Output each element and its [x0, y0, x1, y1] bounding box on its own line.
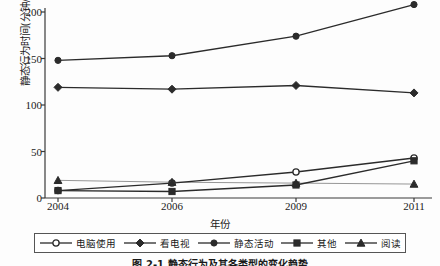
x-tick-label: 2011 [403, 200, 425, 212]
series-1 [54, 81, 418, 96]
legend-item-2[interactable]: 静态活动 [197, 236, 274, 250]
legend-marker-square-icon [280, 237, 314, 249]
axes [41, 8, 432, 202]
legend-item-1[interactable]: 看电视 [123, 236, 190, 250]
series-3 [55, 158, 417, 195]
figure-root: 静态行为时间(分钟/天) 200 150 100 50 0 2004 2006 … [0, 0, 440, 266]
series-2 [55, 1, 417, 63]
legend-marker-diamond-icon [123, 237, 157, 249]
legend-item-3[interactable]: 其他 [280, 236, 337, 250]
chart-canvas [0, 0, 440, 210]
plot-area: 静态行为时间(分钟/天) 200 150 100 50 0 2004 2006 … [0, 0, 440, 210]
series-4 [54, 176, 418, 187]
legend-item-4[interactable]: 阅读 [344, 236, 401, 250]
legend-marker-triangle-icon [344, 237, 378, 249]
legend-label: 静态活动 [234, 236, 274, 250]
legend-marker-open-circle-icon [39, 237, 73, 249]
legend-label: 其他 [317, 236, 337, 250]
legend-label: 电脑使用 [76, 236, 116, 250]
legend-label: 看电视 [160, 236, 190, 250]
x-axis-label: 年份 [0, 216, 440, 231]
x-tick-label: 2004 [47, 200, 69, 212]
legend-marker-circle-icon [197, 237, 231, 249]
figure-caption: 图 2-1 静态行为及其各类型的变化趋势 [0, 256, 440, 266]
legend-label: 阅读 [381, 236, 401, 250]
x-tick-label: 2006 [161, 200, 183, 212]
legend-item-0[interactable]: 电脑使用 [39, 236, 116, 250]
chart-legend: 电脑使用看电视静态活动其他阅读 [34, 233, 406, 253]
x-tick-label: 2009 [285, 200, 307, 212]
